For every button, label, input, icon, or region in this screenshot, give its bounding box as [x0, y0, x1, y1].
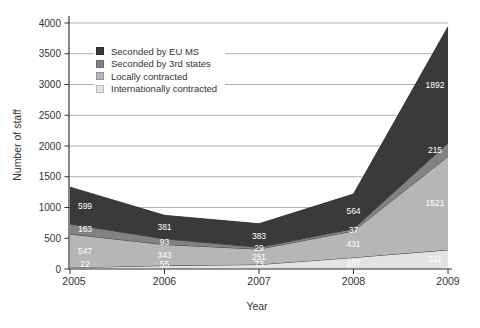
x-axis-title: Year: [246, 300, 267, 312]
data-label-locally-contracted-2009: 1521: [426, 198, 445, 208]
data-label-seconded-by-3rd-states-2005: 163: [78, 224, 92, 234]
legend-label: Seconded by 3rd states: [111, 58, 211, 69]
legend-item-seconded-by-3rd-states: Seconded by 3rd states: [96, 58, 217, 71]
y-tick-label-3500: 3500: [39, 48, 62, 59]
data-label-seconded-by-3rd-states-2006: 93: [160, 237, 170, 247]
x-tick-label-2005: 2005: [62, 275, 86, 287]
legend-label: Locally contracted: [111, 71, 188, 82]
data-label-seconded-by-eu-ms-2009: 1892: [426, 80, 445, 90]
data-label-internationally-contracted-2008: 187: [346, 258, 360, 268]
y-tick-label-2500: 2500: [39, 110, 62, 121]
data-label-seconded-by-3rd-states-2008: 37: [349, 225, 359, 235]
x-tick-label-2008: 2008: [342, 275, 366, 287]
y-tick-label-4000: 4000: [39, 18, 62, 29]
data-label-seconded-by-eu-ms-2006: 381: [157, 222, 171, 232]
data-label-seconded-by-3rd-states-2007: 29: [254, 243, 264, 253]
legend-item-internationally-contracted: Internationally contracted: [96, 83, 217, 96]
legend-swatch-icon: [96, 47, 104, 55]
legend-label: Seconded by EU MS: [111, 46, 199, 57]
data-label-internationally-contracted-2005: 22: [80, 259, 90, 269]
y-tick-label-500: 500: [44, 233, 61, 244]
data-label-locally-contracted-2006: 343: [157, 250, 171, 260]
chart-legend: Seconded by EU MSSeconded by 3rd statesL…: [94, 43, 225, 97]
data-label-seconded-by-eu-ms-2005: 599: [78, 201, 92, 211]
data-label-locally-contracted-2008: 431: [346, 239, 360, 249]
data-label-seconded-by-eu-ms-2008: 564: [346, 206, 360, 216]
x-tick-label-2007: 2007: [247, 275, 271, 287]
legend-swatch-icon: [96, 85, 104, 93]
data-label-seconded-by-eu-ms-2007: 383: [252, 231, 266, 241]
x-tick-label-2006: 2006: [153, 275, 177, 287]
chart-canvas: 0500100015002000250030003500400020052006…: [0, 0, 480, 328]
legend-item-locally-contracted: Locally contracted: [96, 70, 217, 83]
legend-item-seconded-by-eu-ms: Seconded by EU MS: [96, 45, 217, 58]
y-tick-label-1000: 1000: [39, 202, 62, 213]
data-label-seconded-by-3rd-states-2009: 215: [428, 145, 442, 155]
staff-area-chart-figure: 0500100015002000250030003500400020052006…: [0, 0, 480, 328]
y-axis-title: Number of staff: [11, 109, 23, 181]
x-tick-label-2009: 2009: [436, 275, 460, 287]
data-label-internationally-contracted-2009: 311: [428, 254, 442, 264]
legend-swatch-icon: [96, 60, 104, 68]
y-tick-label-0: 0: [55, 264, 61, 275]
y-tick-label-3000: 3000: [39, 79, 62, 90]
legend-label: Internationally contracted: [111, 83, 217, 94]
y-tick-label-1500: 1500: [39, 171, 62, 182]
data-label-locally-contracted-2007: 251: [252, 252, 266, 262]
legend-swatch-icon: [96, 72, 104, 80]
data-label-locally-contracted-2005: 547: [78, 246, 92, 256]
y-tick-label-2000: 2000: [39, 141, 62, 152]
